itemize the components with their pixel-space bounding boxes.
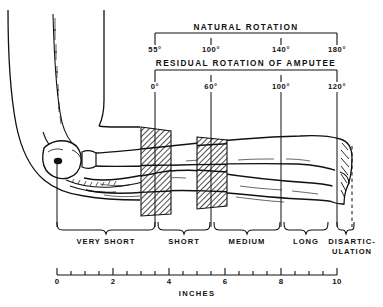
radial-head	[82, 151, 96, 169]
segment-label-long: LONG	[293, 237, 319, 246]
segment-label-short: SHORT	[168, 237, 200, 246]
ruler-axis-label: INCHES	[179, 289, 216, 298]
ruler-tick-label-10: 10	[332, 277, 341, 286]
natural-rotation-title: NATURAL ROTATION	[193, 23, 298, 32]
residual-tick-label-3: 120°	[328, 82, 346, 91]
ruler-tick-label-0: 0	[55, 277, 60, 286]
ruler-tick-label-2: 2	[111, 277, 116, 286]
residual-tick-label-0: 0°	[151, 82, 159, 91]
segment-label-disarticulation-line2: ULATION	[332, 247, 372, 256]
ruler-tick-label-8: 8	[279, 277, 284, 286]
natural-tick-label-2: 140°	[272, 45, 290, 54]
residual-tick-label-1: 60°	[204, 82, 217, 91]
olecranon-joint	[43, 141, 82, 179]
segment-label-disarticulation-line1: DISARTIC-	[328, 237, 375, 246]
natural-tick-label-3: 180°	[328, 45, 346, 54]
residual-rotation-title: RESIDUAL ROTATION OF AMPUTEE	[156, 59, 336, 68]
ruler-tick-label-4: 4	[167, 277, 172, 286]
olecranon-fossa-marking	[54, 158, 62, 164]
segment-label-very-short: VERY SHORT	[77, 237, 136, 246]
segment-label-medium: MEDIUM	[229, 237, 266, 246]
ruler-tick-label-6: 6	[223, 277, 228, 286]
residual-tick-label-2: 100°	[272, 82, 290, 91]
natural-tick-label-1: 100°	[202, 45, 220, 54]
amputation-levels-diagram	[0, 0, 383, 307]
natural-tick-label-0: 55°	[148, 45, 161, 54]
hatched-band-two	[197, 137, 227, 209]
